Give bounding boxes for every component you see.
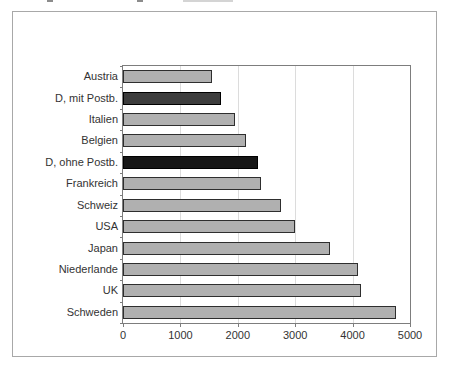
y-axis-tick [120,259,123,260]
bar-uk [123,284,361,297]
y-axis-label: Belgien [81,134,118,147]
cropped-text-fragment [183,0,233,2]
bar-schweden [123,306,396,319]
x-axis-tick-label: 4000 [340,329,364,341]
x-axis-tick [410,323,411,327]
bar-d-ohne-postb- [123,156,258,169]
bar-japan [123,242,330,255]
bar-schweiz [123,199,281,212]
x-axis-tick-label: 1000 [168,329,192,341]
cropped-text-fragment [137,0,143,2]
x-axis-tick-label: 2000 [226,329,250,341]
y-axis-label: D, ohne Postb. [45,156,118,169]
y-axis-tick [120,87,123,88]
x-axis-tick-label: 5000 [398,329,422,341]
x-axis-tick [123,323,124,327]
screenshot-canvas: AustriaD, mit Postb.ItalienBelgienD, ohn… [0,0,451,375]
y-axis-label: USA [95,220,118,233]
y-axis-tick [120,109,123,110]
bar-austria [123,70,212,83]
y-axis-label: Japan [88,242,118,255]
y-axis-label: Schweiz [77,199,118,212]
x-axis-tick [238,323,239,327]
bar-belgien [123,134,246,147]
y-axis-tick [120,216,123,217]
bar-d-mit-postb- [123,92,221,105]
y-axis-tick [120,195,123,196]
y-axis-label: Frankreich [66,177,118,190]
y-axis-label: UK [103,284,118,297]
y-axis-label: Niederlande [59,263,118,276]
plot-area: AustriaD, mit Postb.ItalienBelgienD, ohn… [122,65,411,324]
x-axis-tick [295,323,296,327]
bar-italien [123,113,235,126]
x-axis-tick-label: 0 [120,329,126,341]
y-axis-label: D, mit Postb. [55,92,118,105]
y-axis-tick [120,152,123,153]
x-axis-tick [353,323,354,327]
y-axis-tick [120,302,123,303]
y-axis-tick [120,237,123,238]
bar-usa [123,220,295,233]
cropped-text-fragment [47,0,53,2]
y-axis-label: Italien [89,113,118,126]
x-axis-tick [180,323,181,327]
y-axis-label: Schweden [67,306,118,319]
x-axis-tick-label: 3000 [283,329,307,341]
chart-figure: AustriaD, mit Postb.ItalienBelgienD, ohn… [12,11,437,357]
y-axis-tick [120,173,123,174]
y-axis-tick [120,280,123,281]
y-axis-label: Austria [84,70,118,83]
y-axis-tick [120,130,123,131]
bar-frankreich [123,177,261,190]
bar-niederlande [123,263,358,276]
y-axis-tick [120,66,123,67]
